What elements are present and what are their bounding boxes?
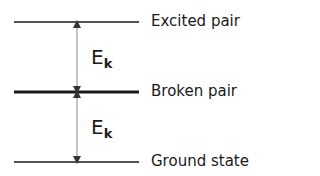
ground-state-label: Ground state xyxy=(151,154,249,169)
broken-pair-label: Broken pair xyxy=(151,84,237,99)
upper-gap-label: Ek xyxy=(91,47,112,70)
lower-gap-label: Ek xyxy=(91,117,112,140)
excited-pair-label: Excited pair xyxy=(151,14,240,29)
